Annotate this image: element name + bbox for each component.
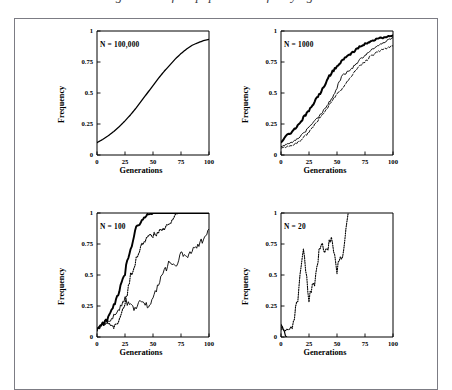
y-tick-label: 0.75 [81,240,93,247]
x-tick-label: 25 [306,340,313,347]
panel-n-20-xlabel: Generations [255,348,395,357]
trajectory-line [97,39,209,142]
panel-n-1000-label: N = 1000 [284,40,314,49]
panel-n-1000: 025507510000.250.50.751 N = 1000 Generat… [255,23,415,183]
x-tick-label: 75 [178,340,185,347]
panel-n-100-plot: 025507510000.250.50.751 [71,205,231,365]
y-tick-label: 0.25 [265,302,277,309]
x-tick-label: 100 [204,158,215,165]
panel-n-1000-ylabel: Frequency [241,86,250,123]
panel-n-20: 025507510000.250.50.751 N = 20 Generatio… [255,205,415,365]
y-tick-label: 0 [274,333,278,340]
panel-n-100000-ylabel: Frequency [57,86,66,123]
x-tick-label: 75 [362,340,369,347]
trajectory-line [281,46,393,148]
x-tick-label: 0 [279,340,283,347]
x-tick-label: 75 [178,158,185,165]
panel-n-100000-plot: 025507510000.250.50.751 [71,23,231,183]
panel-n-100-xlabel: Generations [71,348,211,357]
figure-title-text: genetic drift in populations of varying … [0,0,452,4]
figure-frame: 025507510000.250.50.751 N = 100,000 Gene… [14,18,438,390]
y-tick-label: 0.5 [85,271,94,278]
x-tick-label: 100 [388,340,399,347]
panel-n-1000-plot: 025507510000.250.50.751 [255,23,415,183]
x-tick-label: 100 [388,158,399,165]
y-tick-label: 0.5 [269,271,278,278]
panel-n-20-plot: 025507510000.250.50.751 [255,205,415,365]
panel-n-100: 025507510000.250.50.751 N = 100 Generati… [71,205,231,365]
x-tick-label: 0 [279,158,283,165]
y-tick-label: 0.5 [269,89,278,96]
x-tick-label: 50 [150,340,157,347]
panel-n-100000-label: N = 100,000 [100,40,139,49]
figure-title-cropped: genetic drift in populations of varying … [0,0,452,11]
x-tick-label: 0 [95,158,99,165]
panel-n-100-label: N = 100 [100,222,126,231]
panel-n-20-ylabel: Frequency [241,268,250,305]
trajectory-line [97,229,209,330]
y-tick-label: 0.25 [265,120,277,127]
y-tick-label: 1 [274,209,277,216]
y-tick-label: 0.75 [81,58,93,65]
panel-n-100-ylabel: Frequency [57,268,66,305]
trajectory-line [281,38,393,147]
x-tick-label: 75 [362,158,369,165]
x-tick-label: 50 [334,340,341,347]
y-tick-label: 0.5 [85,89,94,96]
x-tick-label: 25 [122,158,129,165]
x-tick-label: 50 [334,158,341,165]
panel-n-20-label: N = 20 [284,222,306,231]
y-tick-label: 0.25 [81,302,93,309]
panel-n-1000-xlabel: Generations [255,166,395,175]
panel-n-100000-xlabel: Generations [71,166,211,175]
y-tick-label: 0.75 [265,58,277,65]
y-tick-label: 0 [90,151,94,158]
panel-n-100000: 025507510000.250.50.751 N = 100,000 Gene… [71,23,231,183]
y-tick-label: 1 [90,27,93,34]
x-tick-label: 25 [122,340,129,347]
y-tick-label: 1 [90,209,93,216]
y-tick-label: 0 [90,333,94,340]
x-tick-label: 0 [95,340,99,347]
x-tick-label: 100 [204,340,215,347]
x-tick-label: 50 [150,158,157,165]
y-tick-label: 0 [274,151,278,158]
y-tick-label: 1 [274,27,277,34]
x-tick-label: 25 [306,158,313,165]
y-tick-label: 0.75 [265,240,277,247]
y-tick-label: 0.25 [81,120,93,127]
